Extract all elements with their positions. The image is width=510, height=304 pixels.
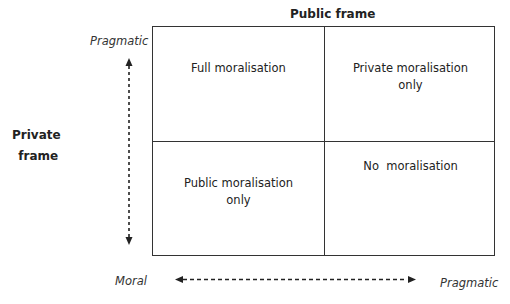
cell-text-line1: Public moralisation <box>184 175 293 192</box>
cell-text-line1: Full moralisation <box>191 60 286 77</box>
cell-public-moralisation-only: Public moralisation only <box>153 142 324 256</box>
vertical-double-arrow-icon <box>126 58 133 245</box>
horizontal-double-arrow-icon <box>175 276 416 283</box>
cell-full-moralisation: Full moralisation <box>153 27 324 141</box>
cell-no-moralisation: No moralisation <box>325 142 496 256</box>
cell-text-line1: No moralisation <box>363 158 457 175</box>
quadrant-grid: Full moralisation Private moralisation o… <box>152 26 495 256</box>
cell-text-line2: only <box>353 77 468 94</box>
cell-text-line2: only <box>184 192 293 209</box>
cell-text-line1: Private moralisation <box>353 60 468 77</box>
